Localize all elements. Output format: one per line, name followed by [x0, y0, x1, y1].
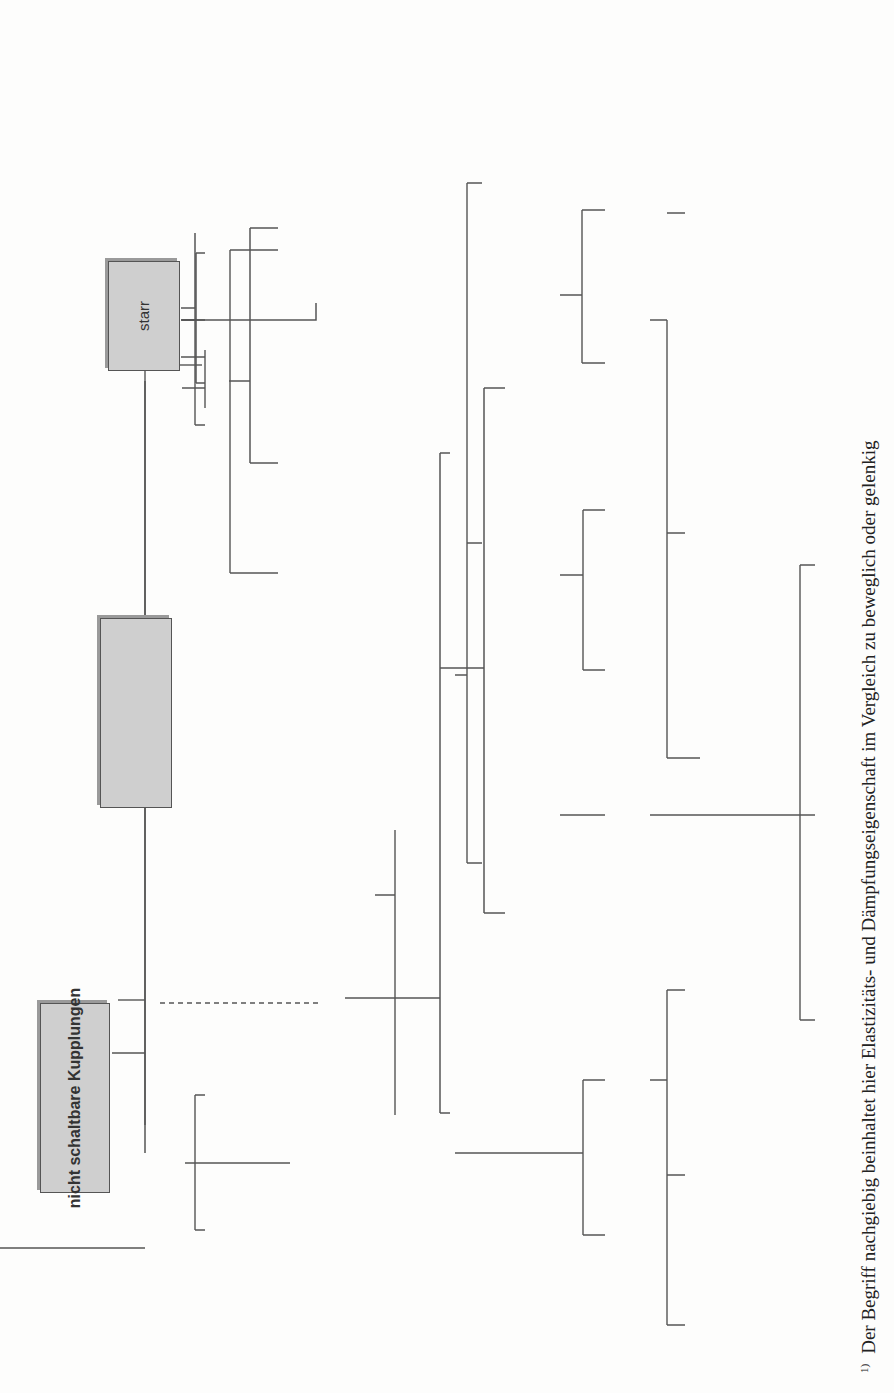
coupling-classification-diagram: nicht schaltbare Kupplungen starr 1)Der …: [0, 0, 894, 1393]
switchable-couplings-box: [100, 618, 172, 808]
rigid-box: starr: [108, 261, 180, 371]
footnote: 1)Der Begriff nachgiebig beinhaltet hier…: [858, 441, 880, 1373]
non-switchable-couplings-box: nicht schaltbare Kupplungen: [40, 1003, 110, 1193]
